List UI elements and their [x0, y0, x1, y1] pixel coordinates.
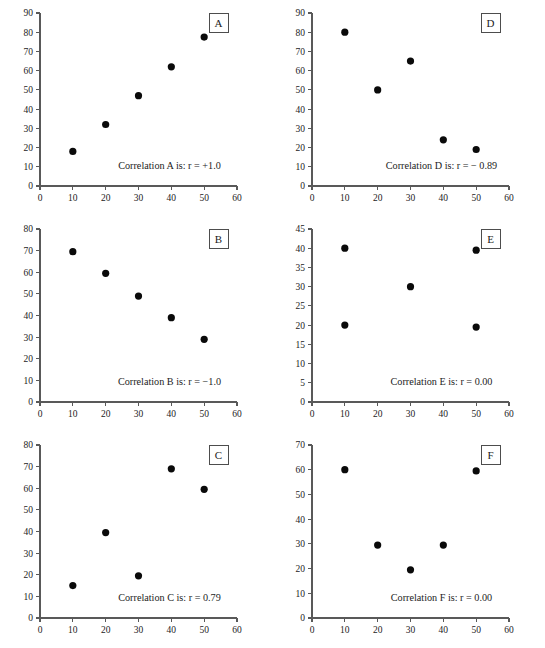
correlation-annotation: Correlation A is: r = +1.0	[118, 160, 221, 171]
correlation-annotation: Correlation F is: r = 0.00	[391, 592, 492, 603]
x-tick-label: 50	[471, 409, 481, 419]
x-tick-label: 50	[199, 409, 209, 419]
data-point	[201, 33, 208, 40]
y-tick-label: 80	[24, 28, 34, 38]
x-tick-label: 40	[439, 193, 449, 203]
panel-letter-label: E	[487, 233, 494, 245]
x-tick-label: 40	[167, 625, 177, 635]
scatter-panel-c: 010203040506070800102030405060Correlatio…	[0, 432, 272, 648]
x-tick-label: 0	[38, 409, 43, 419]
y-tick-label: 70	[296, 47, 306, 57]
data-point	[374, 541, 381, 548]
panel-letter-box: B	[209, 229, 228, 248]
data-point	[168, 63, 175, 70]
x-tick-label: 30	[134, 193, 144, 203]
x-tick-label: 10	[340, 625, 350, 635]
y-tick-label: 0	[28, 397, 33, 407]
scatter-panel-f: 0102030405060700102030405060Correlation …	[272, 432, 544, 648]
y-axis-f: 010203040506070	[296, 440, 313, 623]
panel-letter-label: C	[215, 449, 222, 461]
data-point	[102, 121, 109, 128]
data-point	[135, 292, 142, 299]
y-tick-label: 10	[296, 589, 306, 599]
y-tick-label: 5	[300, 378, 305, 388]
x-tick-label: 50	[199, 193, 209, 203]
data-point	[473, 323, 480, 330]
x-tick-label: 10	[68, 625, 78, 635]
y-tick-label: 40	[296, 244, 306, 254]
y-tick-label: 20	[24, 354, 34, 364]
x-tick-label: 0	[310, 625, 315, 635]
y-tick-label: 80	[24, 440, 34, 450]
x-tick-label: 50	[199, 625, 209, 635]
y-tick-label: 0	[300, 397, 305, 407]
data-point	[168, 465, 175, 472]
x-tick-label: 20	[101, 625, 111, 635]
y-tick-label: 60	[296, 465, 306, 475]
x-axis-c: 0102030405060	[38, 618, 242, 635]
y-tick-label: 40	[296, 515, 306, 525]
y-tick-label: 40	[24, 527, 34, 537]
data-point	[102, 270, 109, 277]
y-tick-label: 10	[296, 359, 306, 369]
x-axis-e: 0102030405060	[310, 402, 514, 419]
y-tick-label: 10	[24, 592, 34, 602]
panel-letter-label: D	[487, 17, 495, 29]
x-tick-label: 10	[340, 193, 350, 203]
data-point	[407, 283, 414, 290]
x-tick-label: 10	[68, 193, 78, 203]
y-tick-label: 60	[24, 484, 34, 494]
correlation-annotation: Correlation B is: r = −1.0	[118, 376, 221, 387]
y-tick-label: 45	[296, 224, 306, 234]
y-axis-c: 01020304050607080	[24, 440, 41, 623]
data-point	[201, 336, 208, 343]
x-tick-label: 60	[504, 625, 514, 635]
x-tick-label: 30	[406, 625, 416, 635]
data-point	[341, 322, 348, 329]
y-tick-label: 25	[296, 301, 306, 311]
x-tick-label: 10	[340, 409, 350, 419]
y-tick-label: 10	[296, 162, 306, 172]
x-tick-label: 30	[406, 193, 416, 203]
y-tick-label: 10	[24, 162, 34, 172]
x-tick-label: 20	[101, 409, 111, 419]
y-axis-d: 0102030405060708090	[296, 8, 313, 191]
x-tick-label: 0	[38, 193, 43, 203]
y-tick-label: 50	[24, 85, 34, 95]
x-tick-label: 10	[68, 409, 78, 419]
y-tick-label: 30	[296, 124, 306, 134]
data-point	[341, 29, 348, 36]
x-tick-label: 60	[232, 625, 242, 635]
x-tick-label: 60	[504, 409, 514, 419]
y-tick-label: 20	[296, 321, 306, 331]
y-axis-b: 01020304050607080	[24, 224, 41, 407]
y-tick-label: 40	[24, 105, 34, 115]
x-tick-label: 0	[38, 625, 43, 635]
x-tick-label: 20	[373, 625, 383, 635]
panel-letter-box: F	[481, 445, 500, 464]
x-tick-label: 40	[167, 193, 177, 203]
y-tick-label: 50	[24, 289, 34, 299]
y-tick-label: 20	[296, 143, 306, 153]
y-tick-label: 50	[296, 85, 306, 95]
data-point	[440, 541, 447, 548]
y-axis-a: 0102030405060708090	[24, 8, 41, 191]
y-tick-label: 10	[24, 376, 34, 386]
scatter-panel-d: 01020304050607080900102030405060Correlat…	[272, 0, 544, 216]
y-tick-label: 30	[296, 282, 306, 292]
y-tick-label: 80	[296, 28, 306, 38]
correlation-annotation: Correlation E is: r = 0.00	[391, 376, 493, 387]
data-point	[69, 582, 76, 589]
data-point	[473, 467, 480, 474]
x-tick-label: 30	[134, 409, 144, 419]
data-point	[407, 566, 414, 573]
correlation-annotation: Correlation D is: r = − 0.89	[386, 160, 497, 171]
correlation-scatterplot-figure: 01020304050607080900102030405060Correlat…	[0, 0, 545, 648]
x-tick-label: 30	[134, 625, 144, 635]
data-point	[69, 148, 76, 155]
data-point	[341, 245, 348, 252]
data-point	[407, 57, 414, 64]
y-tick-label: 20	[296, 564, 306, 574]
x-axis-f: 0102030405060	[310, 618, 514, 635]
panel-letter-box: E	[481, 229, 500, 248]
